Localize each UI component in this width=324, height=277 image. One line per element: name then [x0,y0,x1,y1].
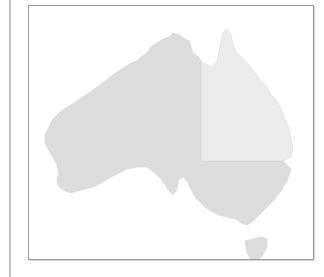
map-frame [28,5,314,260]
side-rule [9,0,11,277]
queensland-region [201,29,293,161]
australia-map [28,5,314,260]
tasmania-region [245,237,267,260]
